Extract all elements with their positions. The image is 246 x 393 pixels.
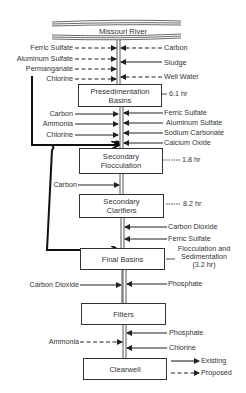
- existing-feeds-presed-right: [124, 113, 163, 143]
- box-label: Presedimentation: [90, 87, 149, 96]
- label-phosphate-2: Phosphate: [169, 329, 203, 337]
- proposed-feeds-left: [75, 48, 116, 79]
- process-box-final-basins: Final Basins: [80, 248, 165, 270]
- legend-existing-label: Existing: [201, 357, 226, 365]
- label-ferric-sulfate-3: Ferric Sulfate: [168, 235, 211, 243]
- time-final-basins: Flocculation and Sedimentation (3.2 hr): [172, 245, 236, 269]
- process-box-presedimentation: Presedimentation Basins: [78, 84, 162, 107]
- box-label: Flocculation: [101, 161, 142, 170]
- box-label: Secondary: [103, 152, 139, 161]
- box-label: Basins: [109, 96, 132, 105]
- label-ammonia: Ammonia: [43, 120, 73, 128]
- label-permanganate: Permanganate: [26, 65, 73, 73]
- label-calcium-oxide: Calcium Oxide: [164, 139, 211, 147]
- label-sludge: Sludge: [164, 59, 186, 67]
- box-label: Secondary: [103, 197, 139, 206]
- time-line: (3.2 hr): [172, 261, 236, 269]
- box-label: Clarifiers: [107, 206, 137, 215]
- label-sodium-carbonate: Sodium Carbonate: [164, 129, 224, 137]
- label-chlorine-2: Chlorine: [46, 131, 73, 139]
- label-aluminum-sulfate-2: Aluminum Sulfate: [166, 119, 222, 127]
- label-chlorine-3: Chlorine: [169, 344, 196, 352]
- river-label: Missouri River: [88, 27, 158, 36]
- label-ferric-sulfate: Ferric Sulfate: [30, 44, 73, 52]
- label-carbon-dioxide-2: Carbon Dioxide: [29, 281, 79, 289]
- legend-proposed-label: Proposed: [201, 369, 232, 377]
- process-box-filters: Filters: [81, 303, 166, 325]
- label-carbon-2: Carbon: [49, 110, 73, 118]
- label-carbon-3: Carbon: [53, 181, 77, 189]
- time-secondary-clarifiers: 8.2 hr: [183, 200, 201, 208]
- process-box-secondary-clarifiers: Secondary Clarifiers: [79, 194, 164, 218]
- existing-feeds-presed-left: [75, 114, 118, 135]
- label-chlorine: Chlorine: [46, 75, 73, 83]
- label-aluminum-sulfate: Aluminum Sulfate: [17, 55, 73, 63]
- process-box-secondary-flocculation: Secondary Flocculation: [79, 148, 163, 174]
- label-carbon-dioxide: Carbon Dioxide: [168, 223, 218, 231]
- process-box-clearwell: Clearwell: [83, 358, 167, 380]
- label-ferric-sulfate-2: Ferric Sulfate: [164, 109, 207, 117]
- label-phosphate-1: Phosphate: [168, 280, 202, 288]
- label-well-water: Well Water: [164, 73, 199, 81]
- time-presedimentation: 6.1 hr: [169, 90, 187, 98]
- label-carbon: Carbon: [164, 44, 188, 52]
- label-ammonia-2: Ammonia: [49, 338, 79, 346]
- time-secondary-flocculation: 1.8 hr: [182, 156, 200, 164]
